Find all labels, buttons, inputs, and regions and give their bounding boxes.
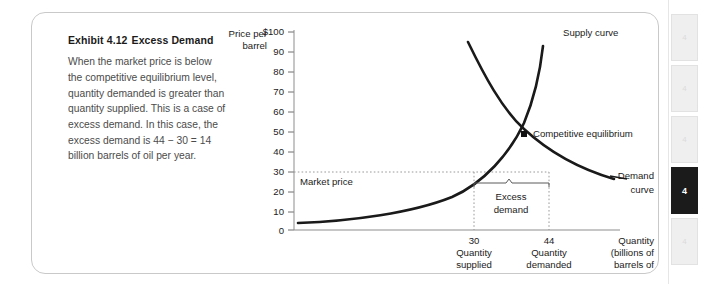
y-axis-title-line2: barrel xyxy=(242,40,267,51)
page-thumbnail-3[interactable]: 4 xyxy=(671,116,698,163)
x-tick-label-44: 44 xyxy=(544,235,555,246)
page-thumbnail-4-active[interactable]: 4 xyxy=(671,167,698,214)
competitive-equilibrium-marker xyxy=(521,131,527,137)
page-thumbnail-3-label: 4 xyxy=(682,135,686,144)
exhibit-title-text: Excess Demand xyxy=(132,34,214,46)
exhibit-number: Exhibit 4.12 xyxy=(68,34,128,46)
y-tick-label-50: 50 xyxy=(273,126,284,137)
page-thumbnail-2-label: 4 xyxy=(682,84,686,93)
x-tick-label-30: 30 xyxy=(469,235,480,246)
y-tick-label-40: 40 xyxy=(273,146,284,157)
competitive-equilibrium-label: Competitive equilibrium xyxy=(533,128,633,139)
demand-curve-leader xyxy=(610,176,627,179)
demand-curve-label-line2: curve xyxy=(631,184,654,195)
page-thumbnail-5[interactable]: 4 xyxy=(671,218,698,265)
market-price-label: Market price xyxy=(300,176,353,187)
y-tick-label-100: $100 xyxy=(263,26,284,37)
excess-demand-bracket xyxy=(474,179,549,187)
y-tick-label-30: 30 xyxy=(273,166,284,177)
y-tick-label-10: 10 xyxy=(273,206,284,217)
y-tick-label-0: 0 xyxy=(279,225,284,236)
exhibit-body-text: When the market price is below the compe… xyxy=(68,54,228,163)
y-tick-label-60: 60 xyxy=(273,106,284,117)
excess-demand-label-line2: demand xyxy=(494,204,529,215)
y-tick-label-20: 20 xyxy=(273,186,284,197)
y-axis-ticks xyxy=(288,32,294,230)
y-tick-label-70: 70 xyxy=(273,86,284,97)
exhibit-card: Exhibit 4.12Excess Demand When the marke… xyxy=(31,12,659,274)
supply-curve-label: Supply curve xyxy=(563,27,618,38)
y-axis-title-line1: Price per xyxy=(229,28,268,39)
page-thumbnail-1[interactable]: 4 xyxy=(671,14,698,61)
page-thumbnail-rail[interactable]: 4 4 4 4 4 xyxy=(668,0,701,284)
demand-curve-label: Demand xyxy=(618,170,654,181)
x-tick-caption-30-line1: Quantity xyxy=(456,247,492,258)
page-thumbnail-5-label: 4 xyxy=(682,237,686,246)
x-axis-title-line1: Quantity xyxy=(618,235,654,246)
page-thumbnail-4-label: 4 xyxy=(682,186,687,196)
rail-divider xyxy=(668,0,669,284)
x-axis-title-line3: barrels of xyxy=(614,259,654,270)
demand-curve xyxy=(468,42,614,179)
exhibit-title: Exhibit 4.12Excess Demand xyxy=(68,33,228,47)
y-tick-label-80: 80 xyxy=(273,66,284,77)
x-tick-caption-44-line1: Quantity xyxy=(531,247,567,258)
y-tick-label-90: 90 xyxy=(273,46,284,57)
exhibit-caption: Exhibit 4.12Excess Demand When the marke… xyxy=(68,33,228,164)
x-tick-caption-44-line2: demanded xyxy=(526,259,571,270)
x-tick-caption-30-line2: supplied xyxy=(456,259,492,270)
page-thumbnail-1-label: 4 xyxy=(682,33,686,42)
excess-demand-label-line1: Excess xyxy=(496,191,527,202)
page-thumbnail-2[interactable]: 4 xyxy=(671,65,698,112)
supply-curve xyxy=(298,46,543,223)
x-axis-title-line4: oil per year) xyxy=(603,271,654,274)
x-axis-title-line2: (billions of xyxy=(611,247,655,258)
